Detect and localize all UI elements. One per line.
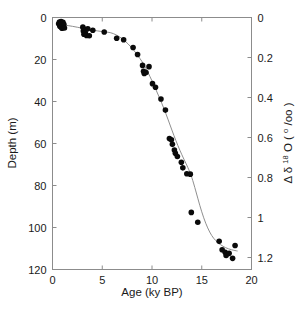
- data-point: [216, 239, 222, 245]
- data-point: [180, 165, 186, 171]
- y2-tick-label: 0.2: [258, 52, 273, 64]
- y-tick-label: 100: [28, 222, 46, 234]
- data-point: [232, 243, 238, 249]
- fit-curve: [58, 24, 237, 251]
- data-point: [90, 28, 96, 34]
- data-point: [230, 256, 236, 262]
- y2-axis-tick-labels: 00.20.40.60.811.2: [258, 12, 273, 264]
- y-tick-label: 0: [40, 12, 46, 24]
- data-point: [179, 159, 185, 165]
- y-tick-label: 20: [34, 54, 46, 66]
- y2-tick-label: 1.2: [258, 252, 273, 264]
- y2-units-rest: /oo: [282, 110, 294, 126]
- data-point: [153, 84, 159, 90]
- data-point: [121, 37, 127, 43]
- svg-text:Δ δ: Δ δ 18 O ( o /oo ): [278, 102, 294, 183]
- chart-canvas: 05101520 020406080100120 00.20.40.60.811…: [0, 0, 302, 312]
- y2-tick-label: 0.8: [258, 172, 273, 184]
- data-point: [175, 154, 181, 160]
- data-point: [101, 29, 107, 35]
- y2-delta-low: δ: [282, 167, 294, 173]
- data-point: [195, 219, 201, 225]
- x-tick-label: 0: [49, 274, 55, 286]
- x-axis-ticks: [53, 18, 252, 270]
- data-point: [62, 25, 68, 31]
- data-point: [169, 137, 175, 143]
- data-point: [135, 52, 141, 58]
- y2-axis-label: Δ δ 18 O ( o /oo ): [278, 102, 294, 183]
- data-point: [163, 107, 169, 113]
- y2-tick-label: 0.6: [258, 132, 273, 144]
- data-point: [143, 70, 149, 76]
- data-point: [170, 142, 176, 148]
- y2-tick-label: 1: [258, 212, 264, 224]
- x-axis-tick-labels: 05101520: [49, 274, 257, 286]
- x-tick-label: 15: [196, 274, 208, 286]
- y2-units-open: (: [282, 136, 294, 140]
- x-tick-label: 10: [146, 274, 158, 286]
- data-point: [146, 64, 152, 70]
- x-axis-label: Age (ky BP): [121, 286, 183, 298]
- plot-frame: [53, 18, 252, 270]
- data-point: [85, 26, 91, 32]
- data-point-group: [56, 19, 238, 261]
- y2-units-close: ): [282, 102, 294, 106]
- data-point: [188, 171, 194, 177]
- data-point: [189, 210, 195, 216]
- y-axis-ticks: [53, 18, 57, 270]
- data-point: [114, 35, 120, 41]
- data-point: [140, 63, 146, 69]
- y-tick-label: 120: [28, 264, 46, 276]
- y2-oxygen: O: [282, 143, 294, 152]
- y2-delta-cap: Δ: [282, 176, 294, 184]
- age-depth-scatter-figure: 05101520 020406080100120 00.20.40.60.811…: [0, 0, 302, 312]
- y2-tick-label: 0: [258, 12, 264, 24]
- y-tick-label: 40: [34, 96, 46, 108]
- data-point: [130, 45, 136, 51]
- data-point: [87, 33, 93, 39]
- y-axis-label: Depth (m): [6, 117, 18, 168]
- y-tick-label: 80: [34, 180, 46, 192]
- y2-tick-label: 0.4: [258, 92, 273, 104]
- y-axis-tick-labels: 020406080100120: [28, 12, 46, 276]
- data-point: [226, 251, 232, 257]
- x-tick-label: 5: [99, 274, 105, 286]
- x-tick-label: 20: [245, 274, 257, 286]
- y2-axis-ticks: [248, 18, 252, 258]
- y2-units-sup: o: [281, 129, 290, 133]
- y-tick-label: 60: [34, 138, 46, 150]
- y2-superscript: 18: [281, 155, 290, 163]
- data-point: [158, 96, 164, 102]
